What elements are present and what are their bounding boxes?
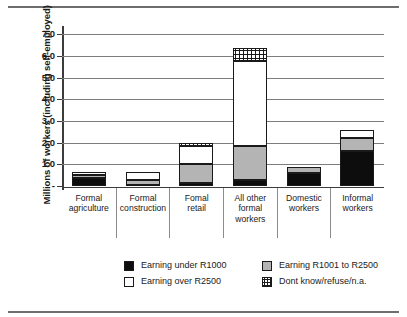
gridline (62, 99, 384, 100)
category-label: Domestic workers (286, 193, 322, 214)
gridline (62, 78, 384, 79)
y-axis-tick (57, 34, 62, 35)
legend-swatch-icon (124, 277, 134, 287)
gridline (62, 164, 384, 165)
bar-segment (287, 167, 321, 174)
category-label: Formal construction (120, 193, 166, 214)
y-axis-tick (57, 143, 62, 144)
bar-segment (72, 175, 106, 178)
bar-6 (340, 130, 374, 186)
category-label: Formal agriculture (69, 193, 109, 214)
category-cell-1: Formal agriculture (62, 188, 116, 238)
y-axis-tick-label: 3.0 (42, 116, 55, 126)
bar-segment (179, 146, 213, 164)
category-label: Fomal retail (185, 193, 209, 214)
bar-3 (179, 143, 213, 186)
bar-4 (233, 48, 267, 186)
category-cell-3: Fomal retail (169, 188, 223, 238)
y-axis-tick (57, 78, 62, 79)
bar-segment (126, 180, 160, 186)
category-cell-5: Domestic workers (277, 188, 331, 238)
plot-area: -1.02.03.04.05.06.07.0 (62, 30, 384, 186)
legend-swatch-icon (124, 261, 134, 271)
legend-item: Dont know/refuse/n.a. (262, 274, 367, 289)
bar-1 (72, 172, 106, 186)
legend-row-1: Earning under R1000Earning R1001 to R250… (62, 258, 384, 273)
y-axis-tick (57, 164, 62, 165)
y-axis-tick-label: 5.0 (42, 73, 55, 83)
legend-label: Dont know/refuse/n.a. (279, 277, 367, 286)
figure-bottom-divider (8, 311, 399, 313)
y-axis-tick-label: 2.0 (42, 138, 55, 148)
category-cell-4: All other formal workers (223, 188, 277, 238)
chart-legend: Earning under R1000Earning R1001 to R250… (62, 258, 384, 292)
bar-5 (287, 167, 321, 187)
category-label: All other formal workers (235, 193, 267, 224)
bar-segment (233, 61, 267, 146)
category-label: Informal workers (342, 193, 373, 214)
figure-top-divider (8, 6, 399, 8)
y-axis-tick-label: 7.0 (42, 30, 55, 40)
y-axis-tick-label: - (52, 181, 55, 191)
category-axis: Formal agricultureFormal constructionFom… (62, 187, 384, 237)
gridline (62, 56, 384, 57)
bar-segment (179, 164, 213, 182)
bar-segment (179, 183, 213, 186)
bar-segment (340, 151, 374, 186)
legend-row-2: Earning over R2500Dont know/refuse/n.a. (62, 274, 384, 289)
legend-item: Earning R1001 to R2500 (262, 258, 378, 273)
y-axis-tick (57, 56, 62, 57)
category-cell-2: Formal construction (116, 188, 170, 238)
bar-segment (126, 172, 160, 180)
legend-swatch-icon (262, 277, 272, 287)
y-axis-title: Millions of workers (including self-empl… (41, 15, 52, 205)
gridline (62, 143, 384, 144)
bar-segment (233, 48, 267, 61)
gridline (62, 34, 384, 35)
y-axis-line (62, 26, 64, 190)
bar-segment (233, 146, 267, 180)
y-axis-tick (57, 99, 62, 100)
bar-segment (233, 180, 267, 187)
legend-label: Earning under R1000 (141, 261, 227, 270)
y-axis-tick (57, 121, 62, 122)
bar-segment (72, 172, 106, 175)
bar-segment (340, 130, 374, 139)
bar-2 (126, 172, 160, 186)
chart-figure: Millions of workers (including self-empl… (0, 0, 407, 317)
legend-item: Earning over R2500 (124, 274, 221, 289)
y-axis-tick-label: 6.0 (42, 51, 55, 61)
legend-item: Earning under R1000 (124, 258, 227, 273)
category-cell-6: Informal workers (330, 188, 384, 238)
y-axis-tick-label: 1.0 (42, 160, 55, 170)
bar-segment (72, 178, 106, 186)
bar-segment (340, 138, 374, 151)
legend-label: Earning over R2500 (141, 277, 221, 286)
bar-segment (287, 173, 321, 186)
legend-swatch-icon (262, 261, 272, 271)
gridline (62, 121, 384, 122)
bar-segment (179, 143, 213, 146)
y-axis-tick-label: 4.0 (42, 95, 55, 105)
legend-label: Earning R1001 to R2500 (279, 261, 378, 270)
